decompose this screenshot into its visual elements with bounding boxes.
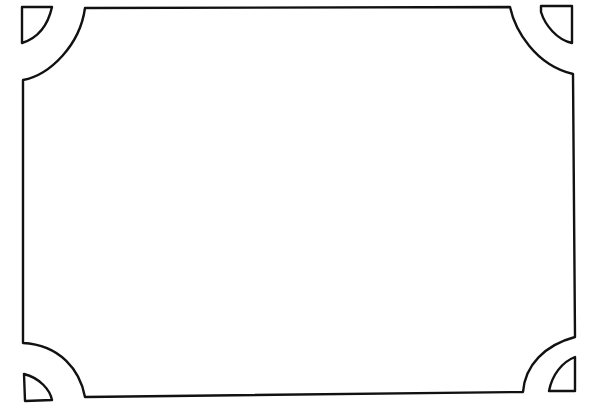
frame-content bbox=[30, 50, 566, 360]
corner-ornament-top-left bbox=[22, 7, 52, 43]
corner-ornament-top-right bbox=[541, 6, 572, 43]
corner-ornament-bottom-left bbox=[24, 374, 52, 401]
corner-ornament-bottom-right bbox=[549, 357, 575, 391]
